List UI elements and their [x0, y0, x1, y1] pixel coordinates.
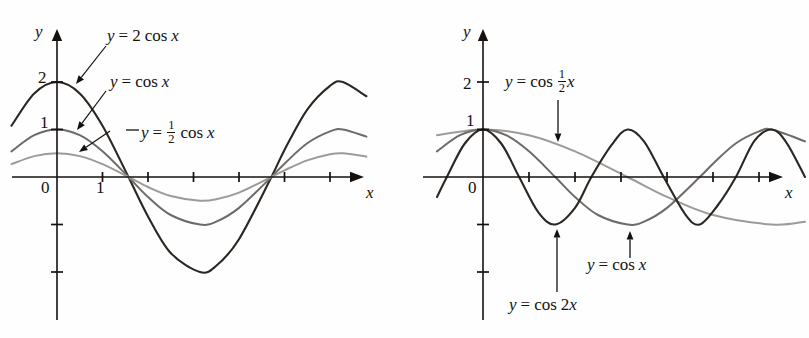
axis-group-left	[12, 29, 364, 320]
arrow-to-2cosx-head	[76, 75, 84, 84]
x-axis-label-left: x	[366, 183, 374, 203]
arrow-to-cosx-shaft	[82, 91, 106, 123]
arrow-to-cos2x-head	[554, 229, 561, 238]
chart-panel-right: y x 0 2 1 y=cos12x y=cosx y=cos2x	[405, 0, 809, 338]
y-axis-label-left: y	[35, 22, 43, 42]
y-tick-label-1-left: 1	[40, 113, 49, 133]
x-axis-label-right: x	[785, 183, 793, 203]
origin-label-right: 0	[468, 178, 477, 198]
y-axis-label-right: y	[463, 22, 471, 42]
y-axis-arrowhead	[52, 29, 62, 41]
origin-label-left: 0	[41, 178, 50, 198]
label-cos2x: y=cos2x	[509, 296, 577, 313]
arrow-to-cosx-right-head	[627, 231, 634, 240]
chart-panel-left: y x 0 2 1 1 y=2cosx y=cosx y=12cosx	[0, 0, 405, 338]
y-tick-label-1-right: 1	[466, 111, 475, 131]
arrow-to-cos-half-x-head	[555, 134, 562, 143]
arrow-to-cosx-head	[77, 121, 85, 130]
arrow-to-half-cosx-shaft	[86, 131, 110, 147]
arrow-to-2cosx-shaft	[81, 46, 106, 77]
x-tick-label-1-left: 1	[96, 178, 105, 198]
label-cosx-right: y=cosx	[587, 256, 646, 273]
chart-canvas-left	[0, 0, 405, 338]
trig-amplitude-period-figure: y x 0 2 1 1 y=2cosx y=cosx y=12cosx y x …	[0, 0, 809, 338]
chart-canvas-right	[405, 0, 809, 338]
x-axis-arrowhead	[350, 172, 364, 182]
label-cos-half-x: y=cos12x	[505, 68, 575, 95]
x-axis-arrowhead	[769, 172, 783, 182]
arrow-to-half-cosx-head	[79, 144, 88, 152]
y-tick-label-2-left: 2	[38, 68, 47, 88]
y-tick-label-2-right: 2	[463, 74, 472, 94]
label-cosx-left: y=cosx	[110, 73, 169, 90]
axis-group-right	[423, 29, 783, 320]
label-2cosx: y=2cosx	[107, 27, 179, 44]
y-axis-arrowhead	[478, 29, 488, 41]
label-half-cosx: y=12cosx	[141, 119, 215, 146]
